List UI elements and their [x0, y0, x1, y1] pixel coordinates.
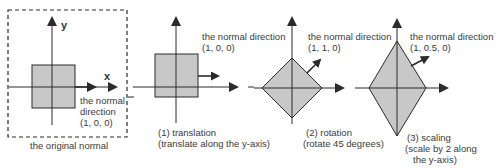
y-axis-label: y: [61, 19, 67, 31]
normal-direction-label: the normal direction (1, 1, 0): [308, 31, 391, 53]
normal-direction-label: the normal direction (1, 0, 0): [202, 31, 285, 53]
caption-translation: (1) translation (translate along the y-a…: [158, 127, 270, 149]
x-axis-label: x: [104, 70, 110, 82]
caption-rotation: (2) rotation (rotate 45 degrees): [303, 127, 384, 149]
normal-direction-label: the normal direction (1, 0, 0): [80, 95, 125, 128]
caption-original: the original normal: [30, 140, 108, 151]
caption-scaling: (3) scaling (scale by 2 along the y-axis…: [405, 132, 477, 165]
normal-direction-label: the normal direction (1, 0.5, 0): [410, 31, 493, 53]
normal-arrow: [411, 57, 428, 66]
normal-arrow: [307, 60, 320, 73]
